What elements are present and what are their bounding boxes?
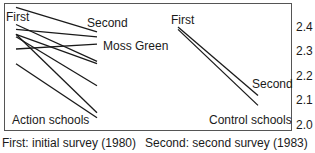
series-line (178, 27, 258, 96)
right-first-label: First (171, 14, 194, 26)
legend-second: Second: second survey (1983) (145, 137, 308, 149)
series-line (178, 29, 258, 105)
series-line (16, 64, 97, 118)
action-schools-label: Action schools (12, 114, 89, 126)
right-second-label: Second (252, 78, 293, 90)
left-second-label: Second (87, 17, 128, 29)
series-line (16, 29, 97, 36)
y-tick-2-1: 2.1 (296, 94, 313, 106)
moss-green-label: Moss Green (103, 40, 168, 52)
left-first-label: First (6, 11, 29, 23)
plot-frame (5, 4, 292, 131)
y-tick-2-0: 2.0 (296, 119, 313, 131)
y-tick-2-2: 2.2 (296, 70, 313, 82)
series-line (16, 37, 97, 86)
y-tick-2-4: 2.4 (296, 21, 313, 33)
y-tick-2-3: 2.3 (296, 45, 313, 57)
control-schools-label: Control schools (209, 114, 292, 126)
legend-first: First: initial survey (1980) (2, 137, 136, 149)
series-line (16, 34, 97, 63)
series-lines (16, 7, 258, 117)
